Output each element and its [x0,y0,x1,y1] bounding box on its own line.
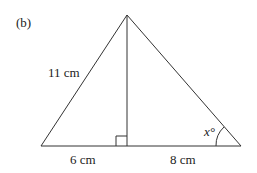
side-left [41,15,127,146]
label-base-left: 6 cm [70,152,96,167]
side-right [127,15,241,146]
right-angle-marker [116,136,127,146]
label-base-right: 8 cm [170,152,196,167]
angle-arc [216,127,224,146]
triangle-diagram: (b) 11 cm 6 cm 8 cm x° [0,0,257,173]
part-label: (b) [16,15,31,30]
label-angle-x: x° [203,124,215,139]
label-hypotenuse-left: 11 cm [48,65,80,80]
